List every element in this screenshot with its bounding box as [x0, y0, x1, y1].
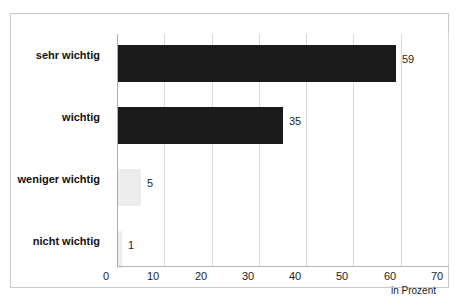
category-label-wichtig: wichtig	[8, 111, 100, 123]
bar-weniger-wichtig	[117, 169, 141, 206]
bar-value-label: 1	[128, 239, 134, 251]
bar-row: 35	[117, 97, 448, 155]
x-tick-label-50: 50	[336, 270, 348, 282]
y-axis-line	[117, 34, 118, 267]
x-tick-label-60: 60	[384, 270, 396, 282]
x-tick-label-40: 40	[289, 270, 301, 282]
bar-row: 5	[117, 159, 448, 217]
bar-value-label: 35	[289, 115, 301, 127]
x-axis-caption: in Prozent	[391, 285, 436, 296]
bar-chart-figure: 59 35 5 1 sehr wichtig wichtig weniger w…	[0, 0, 460, 300]
bar-value-label: 59	[402, 53, 414, 65]
category-label-weniger-wichtig: weniger wichtig	[8, 173, 100, 185]
bar-wichtig	[117, 107, 283, 144]
bar-row: 59	[117, 35, 448, 93]
bar-sehr-wichtig	[117, 45, 396, 82]
plot-area: 59 35 5 1	[117, 34, 448, 266]
x-tick-label-70: 70	[431, 270, 443, 282]
bar-row: 1	[117, 221, 448, 279]
x-tick-label-30: 30	[242, 270, 254, 282]
chart-outer-frame: 59 35 5 1 sehr wichtig wichtig weniger w…	[10, 13, 449, 288]
x-tick-label-0: 0	[103, 270, 109, 282]
x-tick-label-20: 20	[195, 270, 207, 282]
x-axis-line	[117, 266, 449, 267]
category-label-nicht-wichtig: nicht wichtig	[8, 235, 100, 247]
x-tick-label-10: 10	[147, 270, 159, 282]
category-label-sehr-wichtig: sehr wichtig	[8, 49, 100, 61]
gridline-70	[448, 34, 449, 266]
bar-value-label: 5	[147, 177, 153, 189]
